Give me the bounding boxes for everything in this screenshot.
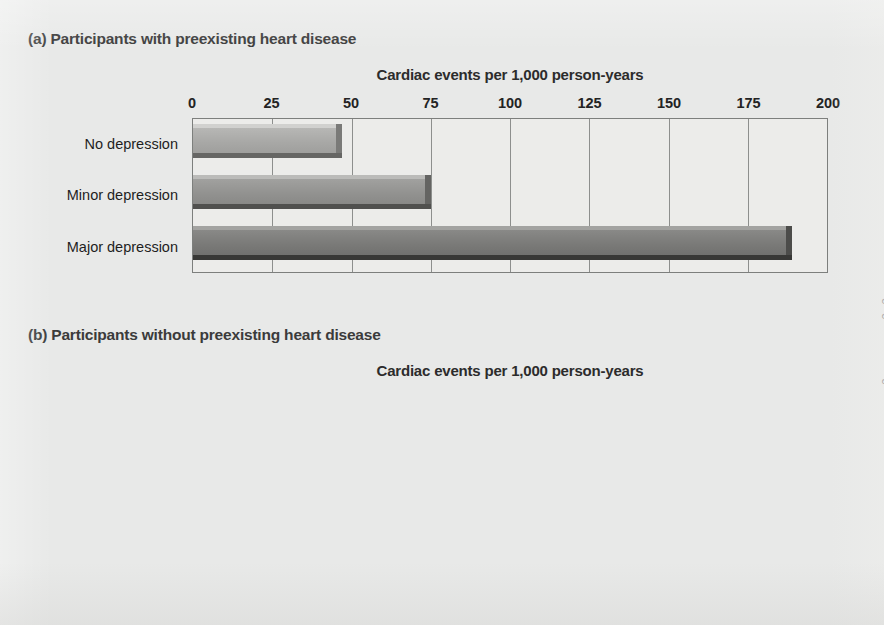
bar-body [193,179,425,205]
y-axis-category-label: Minor depression [67,170,178,222]
x-tick-label: 25 [263,95,279,111]
y-axis-category-label: Major depression [67,221,178,273]
x-tick-label: 150 [657,95,681,111]
panel-a: (a) Participants with preexisting heart … [0,0,884,315]
x-tick-label: 100 [498,95,522,111]
x-tick-label: 75 [422,95,438,111]
bar-row [193,119,827,170]
x-tick-label: 125 [577,95,601,111]
bar-shadow [193,255,792,260]
panel-a-plot-area [192,118,828,273]
panel-a-y-axis-labels: No depressionMinor depressionMajor depre… [10,118,186,273]
bar-shadow [193,153,342,158]
panel-a-x-axis-ticks: 0255075100125150175200 [192,95,828,115]
panel-b-chart-title: Cardiac events per 1,000 person-years [192,362,828,379]
x-tick-label: 200 [816,95,840,111]
x-tick-label: 0 [188,95,196,111]
bar-no-depression [193,128,342,158]
bar-row [193,170,827,221]
panel-a-title: (a) Participants with preexisting heart … [28,30,356,48]
panel-b-title: (b) Participants without preexisting hea… [28,326,381,344]
x-tick-label: 175 [736,95,760,111]
x-tick-label: 50 [343,95,359,111]
panel-b: (b) Participants without preexisting hea… [0,315,884,625]
y-axis-category-label: No depression [85,118,179,170]
bar-body [193,128,336,154]
panel-a-chart-title: Cardiac events per 1,000 person-years [192,66,828,83]
bar-side-face [336,124,342,154]
bar-side-face [786,226,792,256]
figure-container: (a) Participants with preexisting heart … [0,0,884,625]
bar-major-depression [193,230,792,260]
bar-side-face [425,175,431,205]
bar-shadow [193,204,431,209]
bar-body [193,230,786,256]
bar-minor-depression [193,179,431,209]
bar-row [193,221,827,272]
